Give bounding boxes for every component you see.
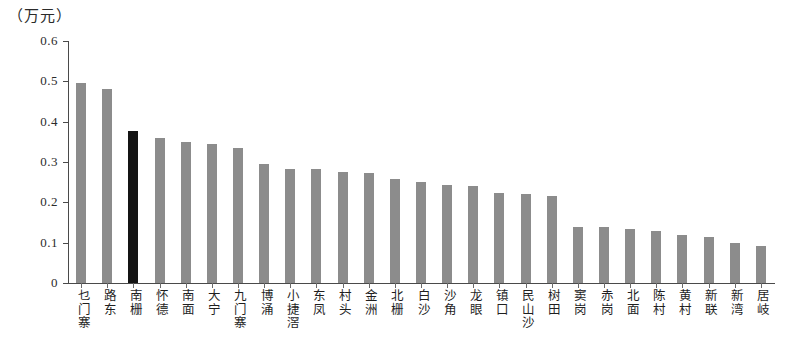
x-axis-tick — [343, 283, 344, 288]
x-axis-tick — [761, 283, 762, 288]
x-axis-tick-label: 大宁 — [205, 289, 219, 316]
bar — [442, 185, 452, 283]
y-axis-tick-label: 0.1 — [0, 235, 58, 251]
bar — [704, 237, 714, 283]
bar — [390, 179, 400, 283]
bar — [102, 89, 112, 283]
x-axis-tick — [447, 283, 448, 288]
plot-area — [68, 41, 774, 283]
x-axis-tick-label: 沙角 — [440, 289, 454, 316]
x-axis-tick — [630, 283, 631, 288]
x-axis-tick — [499, 283, 500, 288]
bar — [625, 229, 635, 283]
x-axis-tick-label: 黄村 — [675, 289, 689, 316]
x-axis-tick — [682, 283, 683, 288]
x-axis-tick-label: 北面 — [623, 289, 637, 316]
bar — [677, 235, 687, 283]
bar-chart: （万元） 0.60.50.40.30.20.10 乜门寨路东南栅怀德南面大宁九门… — [0, 0, 787, 347]
x-axis-tick — [656, 283, 657, 288]
x-axis-tick — [81, 283, 82, 288]
bar — [521, 194, 531, 283]
x-axis-tick — [552, 283, 553, 288]
bar — [155, 138, 165, 283]
bar — [233, 148, 243, 283]
x-axis-labels: 乜门寨路东南栅怀德南面大宁九门寨博涌小捷滘东凤村头金洲北栅白沙沙角龙眼镇口民山沙… — [68, 289, 775, 347]
bar — [468, 186, 478, 283]
x-axis-tick-label: 镇口 — [492, 289, 506, 316]
x-axis-tick-label: 博涌 — [257, 289, 271, 316]
y-axis-tick-label: 0.2 — [0, 194, 58, 210]
x-axis-tick-label: 窦岗 — [571, 289, 585, 316]
x-axis-tick-label: 北栅 — [388, 289, 402, 316]
bar — [756, 246, 766, 284]
bar — [311, 169, 321, 283]
bar — [285, 169, 295, 283]
bar — [181, 142, 191, 283]
y-axis-tick-label: 0.5 — [0, 73, 58, 89]
bar — [494, 193, 504, 283]
bar — [547, 196, 557, 283]
x-axis-tick — [369, 283, 370, 288]
x-axis-tick — [709, 283, 710, 288]
y-axis-tick-label: 0.4 — [0, 114, 58, 130]
x-axis-tick — [735, 283, 736, 288]
x-axis-tick-label: 乜门寨 — [74, 289, 88, 330]
x-axis-tick-label: 东凤 — [309, 289, 323, 316]
x-axis-tick — [264, 283, 265, 288]
x-axis-tick — [473, 283, 474, 288]
bar-series — [68, 41, 774, 283]
bar — [128, 131, 138, 283]
x-axis-tick-label: 村头 — [336, 289, 350, 316]
x-axis-tick-label: 新湾 — [728, 289, 742, 316]
x-axis-tick-label: 树田 — [545, 289, 559, 316]
x-axis-tick-label: 龙眼 — [466, 289, 480, 316]
y-axis-tick-label: 0.6 — [0, 33, 58, 49]
y-axis-tick — [63, 283, 68, 284]
x-axis-tick-label: 小捷滘 — [283, 289, 297, 330]
x-axis-tick-label: 怀德 — [153, 289, 167, 316]
x-axis-tick — [212, 283, 213, 288]
x-axis-tick-label: 金洲 — [362, 289, 376, 316]
x-axis-tick — [421, 283, 422, 288]
x-axis-tick-label: 路东 — [100, 289, 114, 316]
x-axis-tick — [133, 283, 134, 288]
x-axis-tick-label: 九门寨 — [231, 289, 245, 330]
y-axis-tick-label: 0 — [0, 275, 58, 291]
y-axis-tick-label: 0.3 — [0, 154, 58, 170]
x-axis-tick — [160, 283, 161, 288]
x-axis-tick-label: 居岐 — [754, 289, 768, 316]
x-axis-tick — [107, 283, 108, 288]
x-axis-tick — [290, 283, 291, 288]
bar — [207, 144, 217, 283]
x-axis-tick — [604, 283, 605, 288]
x-axis-tick — [238, 283, 239, 288]
x-axis-tick — [526, 283, 527, 288]
bar — [76, 83, 86, 283]
x-axis-tick-label: 白沙 — [414, 289, 428, 316]
bar — [338, 172, 348, 283]
bar — [259, 164, 269, 283]
bar — [730, 243, 740, 283]
x-axis-tick-label: 南栅 — [126, 289, 140, 316]
x-axis-tick-label: 陈村 — [649, 289, 663, 316]
x-axis-tick — [578, 283, 579, 288]
bar — [416, 182, 426, 283]
bar — [364, 173, 374, 283]
bar — [573, 227, 583, 283]
x-axis-tick — [316, 283, 317, 288]
x-axis-tick-label: 赤岗 — [597, 289, 611, 316]
x-axis-tick-label: 新联 — [702, 289, 716, 316]
x-axis-tick-label: 民山沙 — [519, 289, 533, 330]
x-axis-tick-label: 南面 — [179, 289, 193, 316]
x-axis-tick — [186, 283, 187, 288]
bar — [651, 231, 661, 283]
x-axis-tick — [395, 283, 396, 288]
bar — [599, 227, 609, 283]
chart-unit-title: （万元） — [8, 4, 72, 25]
